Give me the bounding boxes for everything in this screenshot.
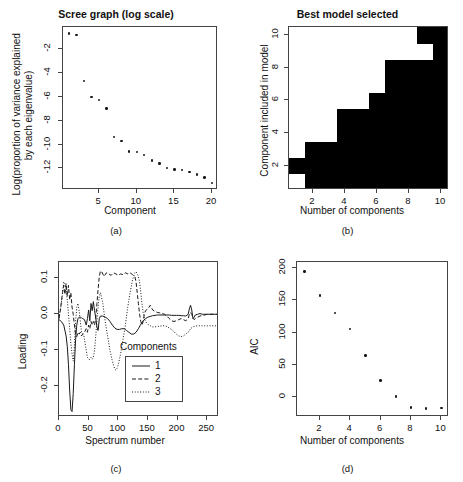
legend-entry-1[interactable]: 1 bbox=[131, 362, 161, 370]
y-tick-mark bbox=[284, 165, 288, 166]
x-tick-label: 150 bbox=[133, 422, 161, 433]
matrix-cell-selected bbox=[401, 157, 418, 174]
x-tick-mark bbox=[312, 189, 313, 193]
panel-d-plot-box bbox=[296, 261, 448, 416]
y-tick-mark bbox=[292, 364, 296, 365]
data-point bbox=[395, 395, 397, 397]
panel-d-x-axis-label: Number of components bbox=[252, 435, 452, 446]
data-point bbox=[136, 151, 138, 153]
matrix-cell-selected bbox=[369, 92, 386, 109]
matrix-cell-empty bbox=[289, 141, 306, 158]
matrix-cell-empty bbox=[385, 27, 402, 44]
matrix-cell-empty bbox=[321, 76, 338, 93]
data-point bbox=[166, 167, 168, 169]
data-point bbox=[211, 182, 213, 184]
panel-b-best-model-selected: Best model selected Component included i… bbox=[232, 0, 463, 241]
panel-b-title: Best model selected bbox=[232, 8, 463, 20]
matrix-cell-selected bbox=[385, 60, 402, 77]
y-tick-label: 50 bbox=[276, 351, 287, 375]
y-tick-mark bbox=[58, 72, 62, 73]
y-tick-mark bbox=[54, 349, 58, 350]
x-tick-mark bbox=[408, 189, 409, 193]
matrix-cell-empty bbox=[289, 76, 306, 93]
matrix-cell-selected bbox=[401, 92, 418, 109]
series-line-2 bbox=[59, 271, 217, 337]
x-tick-label: 100 bbox=[103, 422, 131, 433]
x-tick-mark bbox=[58, 416, 59, 420]
y-tick-label: 0.1 bbox=[38, 264, 49, 290]
matrix-cell-empty bbox=[369, 27, 386, 44]
x-tick-label: 4 bbox=[337, 422, 361, 433]
matrix-cell-empty bbox=[385, 43, 402, 60]
matrix-cell-selected bbox=[417, 141, 434, 158]
y-tick-label: -0.2 bbox=[38, 372, 49, 398]
x-tick-label: 10 bbox=[428, 422, 452, 433]
panel-c-x-axis-label: Spectrum number bbox=[30, 435, 220, 446]
matrix-cell-selected bbox=[401, 141, 418, 158]
matrix-cell-selected bbox=[417, 174, 434, 188]
matrix-cell-empty bbox=[337, 92, 354, 109]
y-tick-mark bbox=[54, 313, 58, 314]
matrix-cell-empty bbox=[321, 60, 338, 77]
panel-c-legend-box: 123 bbox=[125, 356, 183, 402]
y-tick-mark bbox=[284, 67, 288, 68]
matrix-cell-selected bbox=[369, 109, 386, 126]
matrix-cell-selected bbox=[353, 157, 370, 174]
matrix-cell-empty bbox=[353, 92, 370, 109]
matrix-cell-empty bbox=[305, 76, 322, 93]
matrix-cell-selected bbox=[417, 125, 434, 142]
x-tick-mark bbox=[440, 416, 441, 420]
matrix-cell-selected bbox=[417, 27, 434, 44]
matrix-cell-empty bbox=[417, 43, 434, 60]
y-tick-label: -12 bbox=[41, 156, 52, 178]
matrix-cell-selected bbox=[401, 174, 418, 188]
x-tick-mark bbox=[376, 189, 377, 193]
x-tick-mark bbox=[410, 416, 411, 420]
matrix-cell-selected bbox=[369, 141, 386, 158]
matrix-cell-selected bbox=[385, 174, 402, 188]
panel-a-caption: (a) bbox=[0, 225, 232, 236]
y-tick-label: 4 bbox=[269, 121, 280, 141]
data-point bbox=[143, 154, 145, 156]
matrix-cell-selected bbox=[433, 109, 447, 126]
matrix-cell-empty bbox=[289, 60, 306, 77]
panel-d-caption: (d) bbox=[232, 463, 463, 474]
panel-c-y-axis-label: Loading bbox=[17, 312, 28, 392]
matrix-cell-empty bbox=[321, 43, 338, 60]
matrix-cell-selected bbox=[369, 174, 386, 188]
panel-a-y-axis-label-line2: by each eigenvalue) bbox=[23, 36, 34, 196]
legend-label: 1 bbox=[155, 362, 161, 370]
y-tick-label: 0.0 bbox=[38, 300, 49, 326]
panel-c-legend-title: Components bbox=[120, 341, 177, 352]
x-tick-mark bbox=[88, 416, 89, 420]
matrix-cell-empty bbox=[321, 125, 338, 142]
matrix-cell-selected bbox=[337, 125, 354, 142]
panel-a-plot-area bbox=[63, 27, 216, 188]
data-point bbox=[158, 162, 160, 164]
matrix-cell-selected bbox=[305, 157, 322, 174]
legend-entry-3[interactable]: 3 bbox=[131, 388, 161, 396]
x-tick-label: 6 bbox=[368, 422, 392, 433]
matrix-cell-empty bbox=[353, 43, 370, 60]
figure-panel-grid: Scree graph (log scale) Log(proportion o… bbox=[0, 0, 463, 482]
matrix-cell-empty bbox=[369, 76, 386, 93]
panel-a-title: Scree graph (log scale) bbox=[0, 8, 232, 20]
matrix-cell-empty bbox=[305, 109, 322, 126]
matrix-cell-selected bbox=[369, 125, 386, 142]
legend-entry-2[interactable]: 2 bbox=[131, 375, 161, 383]
panel-c-loading-curves: Loading 0.10.0-0.1-0.2 050100150200250 C… bbox=[0, 241, 232, 482]
y-tick-label: 100 bbox=[276, 319, 287, 343]
data-point bbox=[196, 173, 198, 175]
matrix-cell-selected bbox=[433, 125, 447, 142]
matrix-cell-selected bbox=[417, 76, 434, 93]
data-point bbox=[188, 171, 190, 173]
matrix-cell-empty bbox=[353, 60, 370, 77]
x-tick-mark bbox=[319, 416, 320, 420]
y-tick-mark bbox=[284, 132, 288, 133]
matrix-cell-selected bbox=[401, 109, 418, 126]
y-tick-mark bbox=[58, 144, 62, 145]
matrix-cell-empty bbox=[369, 60, 386, 77]
matrix-cell-selected bbox=[289, 157, 306, 174]
x-tick-label: 2 bbox=[307, 422, 331, 433]
legend-key-dashed bbox=[131, 375, 151, 383]
